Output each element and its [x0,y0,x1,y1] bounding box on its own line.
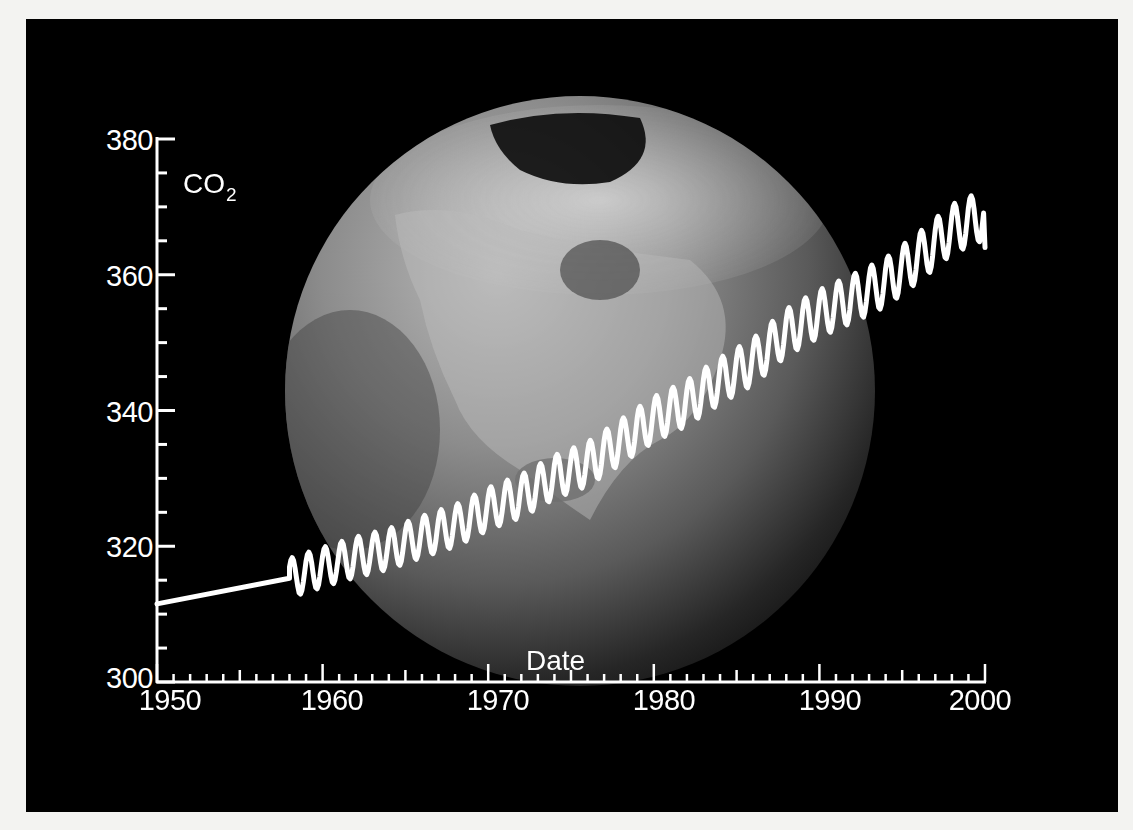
x-tick-label-1960: 1960 [287,686,377,715]
y-tick-label-320: 320 [83,533,153,562]
x-axis-title: Date [526,647,585,675]
x-tick-label-2000: 2000 [935,686,1025,715]
y-axis-title: CO2 [183,170,237,198]
y-tick-label-380: 380 [83,126,153,155]
y-tick-label-340: 340 [83,398,153,427]
earth-globe [260,96,875,686]
y-axis-title-subscript: 2 [226,184,237,205]
y-tick-label-360: 360 [83,262,153,291]
x-tick-label-1990: 1990 [785,686,875,715]
y-axis-title-main: CO [183,168,225,199]
x-tick-label-1980: 1980 [619,686,709,715]
x-tick-label-1970: 1970 [453,686,543,715]
x-tick-label-1950: 1950 [125,686,215,715]
